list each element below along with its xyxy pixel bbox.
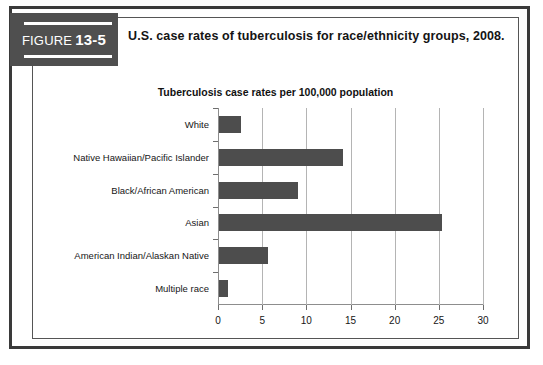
category-label: White — [185, 116, 209, 133]
badge-top-rule — [24, 22, 112, 25]
x-tick-label: 15 — [345, 315, 356, 326]
y-tick — [213, 272, 218, 273]
category-label: Multiple race — [155, 280, 209, 297]
category-label: Black/African American — [111, 182, 209, 199]
badge-bottom-rule — [24, 55, 112, 58]
bar — [219, 214, 442, 231]
y-tick — [213, 108, 218, 109]
gridline-30 — [483, 108, 484, 305]
bar — [219, 280, 228, 297]
y-tick — [213, 174, 218, 175]
gridline-20 — [395, 108, 396, 305]
badge-number: 13-5 — [75, 31, 106, 48]
bar — [219, 149, 343, 166]
chart-title: Tuberculosis case rates per 100,000 popu… — [32, 86, 519, 98]
y-axis-line — [218, 108, 219, 305]
badge-word: FIGURE — [22, 33, 72, 48]
category-label: Native Hawaiian/Pacific Islander — [73, 149, 209, 166]
figure-number-badge: FIGURE13-5 — [10, 13, 118, 66]
y-tick — [213, 207, 218, 208]
x-tick-label: 0 — [215, 315, 221, 326]
x-tick-20 — [395, 305, 396, 310]
figure-container: FIGURE13-5 U.S. case rates of tuberculos… — [0, 0, 543, 365]
x-tick-0 — [218, 305, 219, 310]
gridline-15 — [351, 108, 352, 305]
badge-text: FIGURE13-5 — [22, 31, 106, 48]
chart-area: Tuberculosis case rates per 100,000 popu… — [32, 78, 519, 339]
gridline-10 — [306, 108, 307, 305]
gridline-5 — [262, 108, 263, 305]
x-tick-5 — [262, 305, 263, 310]
category-label: Asian — [185, 214, 209, 231]
y-tick — [213, 141, 218, 142]
category-label: American Indian/Alaskan Native — [74, 247, 209, 264]
x-tick-label: 20 — [389, 315, 400, 326]
figure-caption: U.S. case rates of tuberculosis for race… — [128, 29, 508, 44]
bar — [219, 247, 268, 264]
x-tick-30 — [483, 305, 484, 310]
x-tick-label: 10 — [301, 315, 312, 326]
bar — [219, 182, 298, 199]
x-tick-15 — [351, 305, 352, 310]
bar — [219, 116, 241, 133]
plot-region: 051015202530 WhiteNative Hawaiian/Pacifi… — [218, 108, 483, 305]
x-tick-25 — [439, 305, 440, 310]
x-tick-10 — [306, 305, 307, 310]
y-tick — [213, 239, 218, 240]
gridline-25 — [439, 108, 440, 305]
x-tick-label: 30 — [477, 315, 488, 326]
x-tick-label: 25 — [433, 315, 444, 326]
x-tick-label: 5 — [259, 315, 265, 326]
